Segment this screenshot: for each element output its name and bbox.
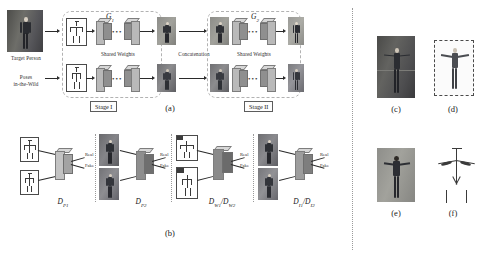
- stage1-output-top: [157, 17, 176, 45]
- dw-edge-bottom: [197, 176, 214, 181]
- arrow-right-icon: [92, 76, 95, 80]
- arrow-right-icon: [283, 29, 286, 33]
- decoder-slab-top-2: [260, 18, 274, 43]
- arrow-right-icon: [92, 29, 95, 33]
- stage1-output-bottom: [157, 64, 176, 92]
- caption-d: (d): [433, 104, 473, 114]
- di-edge-top: [279, 150, 296, 155]
- di-fake-label: Fake: [320, 163, 329, 170]
- dw1-subscript: W1: [214, 203, 221, 208]
- arrow-right-icon: [152, 29, 155, 33]
- dp1-edge-top: [38, 150, 56, 155]
- di-real-label: Real: [320, 152, 328, 159]
- caption-e: (e): [376, 208, 416, 218]
- sample-f-skeleton: [432, 146, 476, 204]
- pose-sketch-input-bottom: [66, 64, 87, 92]
- discriminator-separator-2: [171, 134, 172, 202]
- discriminator-separator-3: [253, 134, 254, 202]
- dp1-subscript: P1: [63, 203, 69, 208]
- stage-1-box: Stage I: [90, 101, 117, 112]
- decoder-slab-bottom-2: [260, 65, 274, 90]
- arrow-right-icon: [283, 76, 286, 80]
- dw-real-label: Real: [240, 152, 248, 159]
- discriminator-dp2-label: DP2: [120, 197, 162, 208]
- stage-2-box: Stage II: [244, 101, 273, 112]
- dp2-input-top-photo: [99, 134, 119, 166]
- stage2-output-top: [288, 17, 304, 45]
- dp1-real-label: Real: [85, 152, 93, 159]
- dw2-subscript: W2: [228, 203, 235, 208]
- arrow-concat-bottom: [179, 78, 205, 79]
- dp2-fake-label: Fake: [160, 163, 169, 170]
- discriminator-di-slab: [295, 148, 311, 178]
- di2-subscript: I2: [310, 203, 314, 208]
- dw-input-bottom-sketch: [176, 167, 198, 199]
- target-person-label: Target Person: [0, 55, 52, 62]
- dp2-subscript: P2: [141, 203, 147, 208]
- stage2-output-bottom: [288, 64, 304, 92]
- dp2-real-label: Real: [160, 152, 168, 159]
- stage2-input-bottom: [210, 64, 229, 92]
- dp2-input-bottom-photo: [99, 168, 119, 200]
- dp1-out-edge-fake: [71, 164, 85, 169]
- generator-g2-subscript: 2: [256, 18, 259, 23]
- encoder-slab-top-1: [96, 18, 110, 43]
- arrow-right-icon: [152, 76, 155, 80]
- dp1-input-bottom-sketch: [20, 170, 39, 195]
- arrow-concat-top: [179, 31, 205, 32]
- dp1-edge-bottom: [38, 176, 56, 181]
- panel-b: Real Fake DP1: [0, 120, 352, 258]
- dp1-fake-label: Fake: [85, 163, 94, 170]
- ellipsis-icon: •••: [248, 29, 258, 36]
- decoder-slab-top-1: [124, 18, 138, 43]
- arrow-right-icon: [57, 29, 60, 33]
- decoder-slab-bottom-1: [124, 65, 138, 90]
- dw-fake-label: Fake: [240, 163, 249, 170]
- pose-sketch-input-top: [66, 18, 87, 46]
- shared-weights-label-stage1: Shared Weights: [82, 51, 154, 58]
- sample-d-canvas: [434, 40, 474, 96]
- discriminator-dp2-slab: [136, 148, 152, 178]
- figure-root: Target Person Poses in-the-Wild G1: [0, 0, 489, 258]
- dp1-input-top-sketch: [20, 137, 39, 162]
- discriminator-separator-1: [95, 134, 96, 202]
- dp1-out-edge-real: [71, 157, 85, 162]
- panel-a: Target Person Poses in-the-Wild G1: [0, 0, 352, 120]
- ellipsis-icon: •••: [112, 76, 122, 83]
- encoder-slab-bottom-1: [96, 65, 110, 90]
- discriminator-dp1-label: DP1: [42, 197, 84, 208]
- generator-g1-subscript: 1: [111, 18, 114, 23]
- stage2-input-top: [210, 17, 229, 45]
- caption-b: (b): [140, 228, 200, 238]
- discriminator-dw-slab: [213, 146, 231, 178]
- panel-right-samples: (c) (d) (e): [352, 0, 489, 258]
- generator-g2-label: G2: [251, 12, 259, 23]
- encoder-slab-bottom-2: [232, 65, 246, 90]
- caption-f: (f): [433, 208, 473, 218]
- di-input-top-photo: [258, 134, 278, 166]
- shared-weights-label-stage2: Shared Weights: [218, 51, 290, 58]
- di-input-bottom-photo: [258, 168, 278, 200]
- discriminator-dw-label: DW1/DW2: [192, 197, 252, 208]
- discriminator-di-label: DI1/DI2: [275, 197, 333, 208]
- arrow-right-icon: [57, 76, 60, 80]
- poses-in-the-wild-label-line2: in-the-Wild: [0, 81, 52, 88]
- discriminator-dp1-slab: [55, 148, 71, 178]
- dw-input-top-sketch: [176, 135, 198, 161]
- encoder-slab-top-2: [232, 18, 246, 43]
- sample-c-photo: [377, 36, 415, 98]
- dw-edge-top: [197, 150, 214, 155]
- caption-c: (c): [376, 104, 416, 114]
- dp2-edge-bottom: [120, 176, 137, 181]
- target-person-photo: [7, 10, 43, 52]
- dp2-edge-top: [120, 150, 137, 155]
- ellipsis-icon: •••: [112, 29, 122, 36]
- ellipsis-icon: •••: [248, 76, 258, 83]
- caption-a: (a): [140, 103, 200, 113]
- di-edge-bottom: [279, 176, 296, 181]
- sample-e-photo: [377, 148, 415, 202]
